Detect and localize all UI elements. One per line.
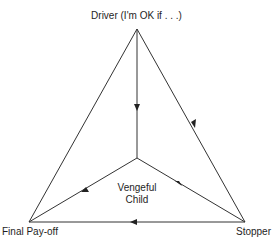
vengeful-child-line1: Vengeful <box>112 182 162 194</box>
vengeful-child-line2: Child <box>112 194 162 206</box>
triangle-diagram: Driver (I'm OK if . . .) Final Pay-off S… <box>0 0 273 246</box>
arrow-down-left-icon <box>81 187 89 192</box>
vengeful-child-label: Vengeful Child <box>112 182 162 206</box>
stopper-label: Stopper <box>236 226 271 238</box>
arrow-down-icon <box>134 104 140 111</box>
arrow-left-icon <box>130 219 137 225</box>
final-payoff-label: Final Pay-off <box>2 226 58 238</box>
driver-label: Driver (I'm OK if . . .) <box>0 10 273 22</box>
diagram-lines <box>0 0 273 246</box>
